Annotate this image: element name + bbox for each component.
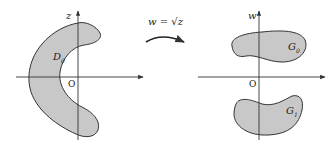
mapping: w = √z [146, 16, 184, 42]
mapping-arrow-icon [146, 37, 184, 42]
mapping-label: w = √z [148, 16, 184, 27]
w-axis-label: w [248, 10, 257, 21]
w-origin-label: O [249, 79, 256, 89]
w-plane: w O G0 G1 [198, 10, 325, 140]
z-origin-label: O [68, 79, 75, 89]
z-axis-label: z [65, 10, 72, 21]
region-d0 [29, 23, 101, 137]
z-plane: z O D0 [16, 10, 143, 140]
conformal-mapping-diagram: z O D0 w = √z w O G0 G1 [0, 0, 336, 149]
